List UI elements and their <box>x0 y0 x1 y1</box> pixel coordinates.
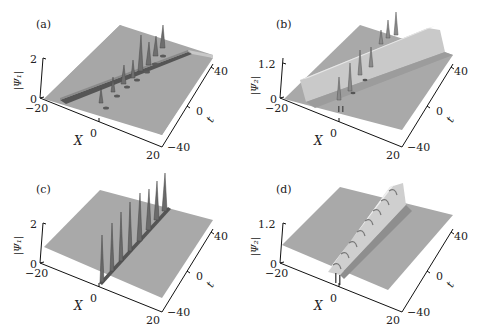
x-axis-label: X <box>314 135 323 147</box>
panel-label: (a) <box>36 19 51 30</box>
z-tick-top: 2 <box>30 219 37 230</box>
panel-label: (b) <box>276 19 292 30</box>
x-tick-min: −20 <box>25 268 48 279</box>
t-tick-max: 40 <box>454 66 468 77</box>
x-tick-max: 20 <box>146 315 160 326</box>
t-tick-min: −40 <box>407 142 430 153</box>
panel-b: (b) 1.2 0 |Ψ₂| −20 0 20 X −40 0 40 t <box>240 0 480 166</box>
x-tick-mid: 0 <box>90 293 97 304</box>
t-tick-min: −40 <box>167 142 190 153</box>
z-tick-top: 1.2 <box>258 59 276 70</box>
panel-d: (d) 1.2 0 |Ψ₂| −20 0 20 X −40 0 40 t <box>240 165 480 331</box>
x-tick-mid: 0 <box>330 128 337 139</box>
t-tick-min: −40 <box>167 307 190 318</box>
t-tick-mid: 0 <box>196 106 203 117</box>
t-tick-max: 40 <box>214 66 228 77</box>
x-axis-label: X <box>314 300 323 312</box>
panel-a: (a) 2 0 |Ψ₁| −20 0 20 X −40 0 40 t <box>0 0 240 166</box>
z-axis-label: |Ψ₂| <box>249 76 260 96</box>
t-tick-mid: 0 <box>436 106 443 117</box>
t-tick-max: 40 <box>454 231 468 242</box>
z-axis-label: |Ψ₁| <box>12 236 23 256</box>
x-axis-label: X <box>74 300 83 312</box>
t-tick-mid: 0 <box>436 271 443 282</box>
t-tick-mid: 0 <box>196 271 203 282</box>
z-axis-label: |Ψ₂| <box>249 237 260 257</box>
x-axis-label: X <box>74 135 83 147</box>
x-tick-max: 20 <box>386 315 400 326</box>
z-tick-top: 1.2 <box>258 219 276 230</box>
x-tick-max: 20 <box>386 150 400 161</box>
x-tick-min: −20 <box>265 268 288 279</box>
t-tick-min: −40 <box>407 307 430 318</box>
z-axis-label: |Ψ₁| <box>12 71 23 91</box>
t-tick-max: 40 <box>214 231 228 242</box>
x-tick-min: −20 <box>25 103 48 114</box>
z-tick-top: 2 <box>30 54 37 65</box>
x-tick-mid: 0 <box>330 293 337 304</box>
x-tick-max: 20 <box>146 150 160 161</box>
x-tick-mid: 0 <box>90 128 97 139</box>
panel-c: (c) 2 0 |Ψ₁| −20 0 20 X −40 0 40 t <box>0 165 240 331</box>
panel-label: (c) <box>36 184 51 195</box>
panel-label: (d) <box>276 184 292 195</box>
x-tick-min: −20 <box>265 103 288 114</box>
